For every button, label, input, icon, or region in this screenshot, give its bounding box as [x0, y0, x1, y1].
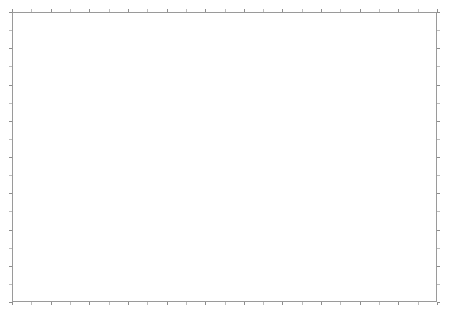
y-axis-tick-right-11 [437, 211, 440, 212]
x-axis-tick-bottom-9 [186, 302, 187, 305]
x-axis-tick-bottom-6 [128, 302, 129, 305]
x-axis-tick-bottom-14 [282, 302, 283, 305]
y-axis-tick-right-8 [437, 157, 440, 158]
y-axis-tick-right-7 [437, 139, 440, 140]
y-axis-tick-left-16 [9, 302, 12, 303]
x-axis-tick-bottom-11 [225, 302, 226, 305]
y-axis-tick-right-12 [437, 230, 440, 231]
y-axis-tick-right-15 [437, 284, 440, 285]
y-axis-tick-right-5 [437, 103, 440, 104]
x-axis-tick-bottom-17 [340, 302, 341, 305]
x-axis-tick-bottom-13 [263, 302, 264, 305]
x-axis-tick-top-22 [437, 9, 438, 12]
x-axis-tick-bottom-15 [302, 302, 303, 305]
y-axis-tick-right-6 [437, 121, 440, 122]
figure-container [0, 0, 450, 315]
y-axis-tick-right-16 [437, 302, 440, 303]
x-axis-tick-bottom-1 [31, 302, 32, 305]
y-axis-tick-right-3 [437, 66, 440, 67]
y-axis-tick-right-13 [437, 248, 440, 249]
y-axis-tick-right-9 [437, 175, 440, 176]
y-axis-tick-right-14 [437, 266, 440, 267]
x-axis-tick-bottom-5 [109, 302, 110, 305]
x-axis-tick-bottom-0 [12, 302, 13, 305]
x-axis-tick-bottom-10 [205, 302, 206, 305]
x-axis-tick-bottom-3 [70, 302, 71, 305]
x-axis-tick-bottom-12 [244, 302, 245, 305]
x-axis-tick-bottom-16 [321, 302, 322, 305]
y-axis-tick-right-2 [437, 48, 440, 49]
plot-frame-box [12, 12, 437, 302]
y-axis-tick-right-0 [437, 12, 440, 13]
x-axis-tick-bottom-22 [437, 302, 438, 305]
x-axis-tick-bottom-21 [418, 302, 419, 305]
y-axis-tick-right-1 [437, 30, 440, 31]
x-axis-tick-bottom-8 [167, 302, 168, 305]
x-axis-tick-bottom-18 [360, 302, 361, 305]
x-axis-tick-bottom-19 [379, 302, 380, 305]
x-axis-tick-bottom-7 [147, 302, 148, 305]
x-axis-tick-bottom-4 [89, 302, 90, 305]
x-axis-tick-bottom-2 [51, 302, 52, 305]
y-axis-tick-right-4 [437, 85, 440, 86]
y-axis-tick-right-10 [437, 193, 440, 194]
x-axis-tick-bottom-20 [398, 302, 399, 305]
